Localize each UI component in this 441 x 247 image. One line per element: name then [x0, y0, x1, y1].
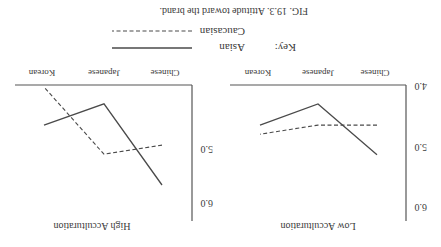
y-tick-label: 4.0	[415, 81, 428, 92]
asian-line	[44, 104, 162, 185]
figure: 6.0 5.0 4.0 Low Acculturation Chinese Ja…	[0, 0, 441, 247]
chart-title: High Acculturation	[54, 221, 131, 232]
asian-line	[260, 104, 377, 155]
y-tick-label: 6.0	[201, 198, 214, 209]
x-tick-label: Japanese	[302, 68, 334, 78]
legend-key-label: Key:	[275, 42, 296, 54]
figure-canvas: 6.0 5.0 4.0 Low Acculturation Chinese Ja…	[0, 0, 441, 247]
legend-label-caucasian: Caucasian	[199, 26, 245, 38]
caucasian-line	[260, 125, 377, 134]
y-tick-label: 6.0	[415, 202, 428, 213]
high-acculturation-chart: 6.0 5.0 High Acculturation Chinese Japan…	[15, 68, 213, 232]
chart-title: Low Acculturation	[280, 221, 355, 232]
y-tick-label: 5.0	[415, 142, 428, 153]
figure-caption: FIG. 19.3. Attitude toward the brand.	[159, 6, 308, 17]
legend-label-asian: Asian	[219, 42, 245, 54]
x-tick-label: Chinese	[150, 68, 179, 78]
legend: Key: Asian Caucasian	[112, 26, 296, 54]
x-tick-label: Korean	[244, 68, 271, 78]
caucasian-line	[44, 87, 162, 154]
low-acculturation-chart: 6.0 5.0 4.0 Low Acculturation Chinese Ja…	[230, 68, 427, 232]
x-tick-label: Chinese	[360, 68, 389, 78]
y-tick-label: 5.0	[201, 144, 214, 155]
x-tick-label: Korean	[28, 68, 55, 78]
x-tick-label: Japanese	[88, 68, 120, 78]
